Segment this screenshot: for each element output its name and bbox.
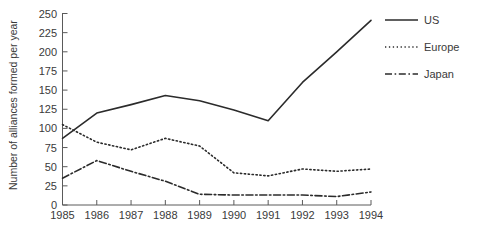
series-line-japan xyxy=(63,161,372,197)
x-tick-label: 1993 xyxy=(324,209,348,221)
series-line-europe xyxy=(63,125,372,176)
x-axis-tick-marks xyxy=(97,200,371,205)
x-tick-label: 1989 xyxy=(187,209,211,221)
x-tick-label: 1992 xyxy=(290,209,314,221)
x-axis-tick-labels: 1985198619871988198919901991199219931994 xyxy=(50,209,383,221)
y-tick-label: 150 xyxy=(39,84,57,96)
series-paths-group xyxy=(63,20,372,196)
y-tick-label: 175 xyxy=(39,65,57,77)
y-tick-label: 50 xyxy=(45,161,57,173)
y-tick-label: 225 xyxy=(39,27,57,39)
chart-svg: Number of alliances formed per year 0255… xyxy=(0,0,480,233)
line-chart: Number of alliances formed per year 0255… xyxy=(0,0,480,233)
y-tick-label: 250 xyxy=(39,8,57,20)
y-tick-label: 100 xyxy=(39,122,57,134)
y-tick-label: 125 xyxy=(39,103,57,115)
y-axis-title: Number of alliances formed per year xyxy=(7,20,19,190)
series-line-us xyxy=(63,20,372,138)
x-tick-label: 1985 xyxy=(50,209,74,221)
chart-legend: USEuropeJapan xyxy=(385,14,459,80)
x-tick-label: 1988 xyxy=(153,209,177,221)
y-tick-label: 75 xyxy=(45,142,57,154)
x-tick-label: 1994 xyxy=(359,209,383,221)
legend-label-japan: Japan xyxy=(424,68,454,80)
y-axis-title-group: Number of alliances formed per year xyxy=(7,20,19,190)
x-tick-label: 1990 xyxy=(222,209,246,221)
legend-label-us: US xyxy=(424,14,439,26)
x-tick-label: 1991 xyxy=(256,209,280,221)
y-tick-label: 200 xyxy=(39,46,57,58)
x-tick-label: 1987 xyxy=(119,209,143,221)
x-tick-label: 1986 xyxy=(85,209,109,221)
legend-label-europe: Europe xyxy=(424,41,459,53)
y-tick-label: 25 xyxy=(45,180,57,192)
y-axis-tick-labels: 0255075100125150175200225250 xyxy=(39,8,57,212)
